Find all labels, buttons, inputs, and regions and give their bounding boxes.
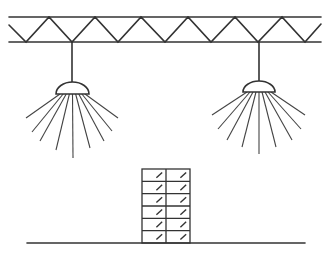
light-ray [262,92,276,147]
building [142,169,190,243]
right-lamp [212,42,305,154]
lighting-diagram [0,0,334,253]
left-lamp [26,42,118,158]
lamp-shade-icon [243,81,275,92]
lamp-shade-icon [56,82,89,94]
ceiling-truss [9,17,321,42]
diagram-canvas [0,0,334,253]
light-ray [218,92,250,129]
light-ray [227,92,253,140]
light-ray [82,94,112,131]
light-ray [32,94,63,132]
light-ray [79,94,104,141]
light-ray [212,92,247,115]
light-ray [56,94,69,150]
pendant-lamps [26,42,305,158]
light-ray [268,92,301,129]
light-ray [73,94,74,158]
truss-web [9,17,321,42]
light-ray [265,92,292,140]
